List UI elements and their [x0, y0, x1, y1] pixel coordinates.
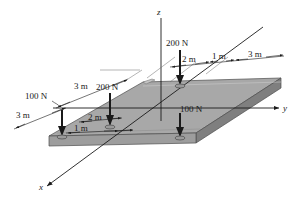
dim-top-3m-label: 3 m — [248, 49, 262, 59]
dim-top-2m-label: 2 m — [182, 54, 196, 64]
dim-front-1m-label: 1 m — [74, 123, 88, 133]
force-200n-rear-label: 200 N — [166, 38, 189, 48]
force-200n-front-label: 200 N — [96, 82, 119, 92]
force-100n-right-pad — [175, 136, 185, 140]
dim-top-1m-label: 1 m — [212, 51, 226, 61]
force-100n-right-label: 100 N — [180, 104, 203, 114]
z-axis-label: z — [156, 7, 161, 17]
statics-plate-figure: z y x 2 m 1 m 3 m 3 m — [0, 0, 303, 204]
dim-front-2m-label: 2 m — [88, 112, 102, 122]
force-200n-rear-pad — [175, 84, 185, 88]
force-100n-left-pad — [57, 135, 67, 139]
y-axis-label: y — [282, 103, 287, 113]
force-200n-front-pad — [105, 125, 115, 129]
dim-left-3m-label: 3 m — [74, 81, 88, 91]
figure-canvas: z y x 2 m 1 m 3 m 3 m — [0, 0, 303, 204]
force-100n-left-label: 100 N — [25, 91, 48, 101]
dim-lower-3m-label: 3 m — [16, 110, 30, 120]
x-axis-label: x — [38, 182, 43, 192]
